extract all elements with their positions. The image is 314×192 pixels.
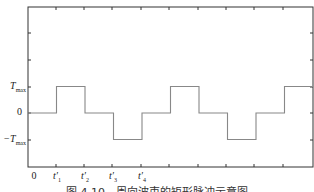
x-label-t1: t′1 <box>49 170 65 183</box>
x-label-zero: 0 <box>26 170 42 181</box>
figure-caption: 图 4.10 周向波束的矩形脉冲示意图 <box>0 183 314 192</box>
y-label-zero: 0 <box>0 106 22 117</box>
y-label-neg-tmax: −Tmax <box>0 133 26 146</box>
pulse-waveform <box>28 87 313 140</box>
x-label-t3: t′3 <box>105 170 121 183</box>
y-label-tmax: Tmax <box>0 80 26 93</box>
x-label-t2: t′2 <box>77 170 93 183</box>
chart-plot <box>0 0 314 192</box>
x-label-t4: t′4 <box>134 170 150 183</box>
pulse-chart: Tmax 0 −Tmax 0 t′1 t′2 t′3 t′4 图 4.10 周向… <box>0 0 314 192</box>
